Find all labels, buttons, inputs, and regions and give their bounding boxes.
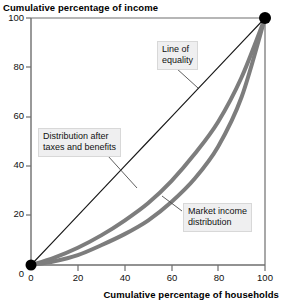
lorenz-curve-chart: Cumulative percentage of income Cumulati… xyxy=(0,0,283,301)
callout-line-of-equality-line2: equality xyxy=(162,55,193,66)
callout-line-of-equality-line1: Line of xyxy=(162,44,193,55)
leader-line-after-tax xyxy=(108,156,137,188)
leader-line-equality xyxy=(176,68,198,88)
callout-distribution-after-taxes-and-benefits: Distribution after taxes and benefits xyxy=(38,128,121,157)
callout-market-income-line1: Market income xyxy=(188,206,247,217)
endpoint-marker xyxy=(259,12,271,24)
callout-after-tax-line2: taxes and benefits xyxy=(43,142,116,153)
callout-market-income-distribution: Market income distribution xyxy=(183,203,252,232)
callout-market-income-line2: distribution xyxy=(188,217,247,228)
callout-after-tax-line1: Distribution after xyxy=(43,131,116,142)
origin-point-marker xyxy=(26,260,37,271)
callout-line-of-equality: Line of equality xyxy=(157,41,198,70)
